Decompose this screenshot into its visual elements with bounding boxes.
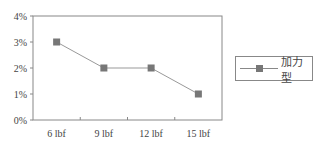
y-tick-label: 1% — [14, 89, 27, 100]
legend-swatch — [240, 64, 278, 74]
y-tick-label: 0% — [14, 115, 27, 126]
x-tick-label: 15 lbf — [187, 128, 211, 139]
x-tick-label: 6 lbf — [47, 128, 66, 139]
y-tick-label: 3% — [14, 37, 27, 48]
data-point-marker — [100, 65, 107, 72]
data-point-marker — [195, 91, 202, 98]
y-tick-label: 4% — [14, 11, 27, 22]
x-tick-label: 9 lbf — [95, 128, 114, 139]
legend-label: 加力型 — [281, 53, 312, 85]
square-marker-icon — [256, 65, 263, 72]
y-axis: 0%1%2%3%4% — [14, 11, 33, 126]
y-tick-label: 2% — [14, 63, 27, 74]
x-tick-label: 12 lbf — [139, 128, 163, 139]
data-point-marker — [53, 39, 60, 46]
data-point-marker — [148, 65, 155, 72]
legend: 加力型 — [235, 56, 313, 81]
